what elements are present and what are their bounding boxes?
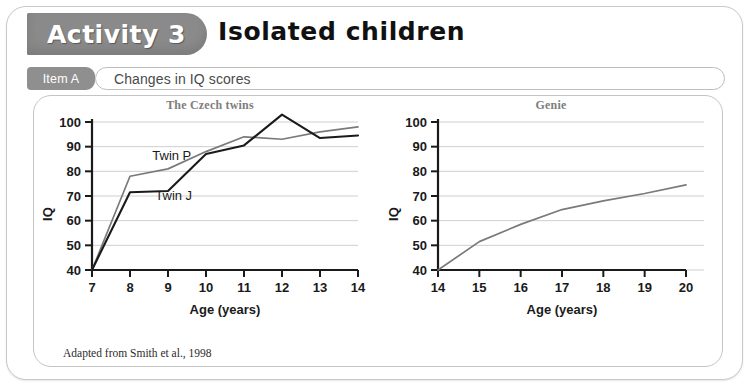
svg-text:100: 100: [59, 115, 81, 130]
svg-text:16: 16: [513, 280, 527, 295]
svg-text:8: 8: [126, 280, 133, 295]
svg-text:14: 14: [431, 280, 446, 295]
svg-text:Age (years): Age (years): [527, 302, 598, 317]
source-credit: Adapted from Smith et al., 1998: [63, 347, 212, 359]
svg-text:60: 60: [413, 213, 427, 228]
svg-text:Twin P: Twin P: [152, 148, 191, 163]
charts-panel: The Czech twins 405060708090100789101112…: [33, 95, 723, 367]
svg-text:90: 90: [67, 139, 81, 154]
svg-text:100: 100: [405, 115, 427, 130]
svg-text:11: 11: [237, 280, 251, 295]
svg-text:50: 50: [67, 238, 81, 253]
svg-text:40: 40: [413, 263, 427, 278]
svg-text:12: 12: [275, 280, 289, 295]
chart-canvas-czech-twins: 4050607080901007891011121314Age (years)I…: [40, 108, 380, 333]
item-caption-label: Changes in IQ scores: [96, 71, 251, 87]
svg-text:90: 90: [413, 139, 427, 154]
svg-text:60: 60: [67, 213, 81, 228]
svg-text:40: 40: [67, 263, 81, 278]
chart-genie: Genie 40506070809010014151617181920Age (…: [386, 96, 716, 336]
svg-text:Twin J: Twin J: [155, 188, 192, 203]
item-row: Item A Changes in IQ scores: [27, 67, 727, 92]
svg-text:18: 18: [596, 280, 610, 295]
svg-text:70: 70: [67, 189, 81, 204]
svg-text:IQ: IQ: [386, 207, 401, 221]
page-title: Isolated children: [218, 17, 465, 46]
activity-tab-label: Activity 3: [27, 20, 186, 49]
svg-text:10: 10: [199, 280, 213, 295]
svg-text:50: 50: [413, 238, 427, 253]
activity-tab: Activity 3: [27, 13, 207, 55]
chart-canvas-genie: 40506070809010014151617181920Age (years)…: [386, 108, 716, 333]
svg-text:19: 19: [637, 280, 651, 295]
svg-text:20: 20: [679, 280, 693, 295]
chart-czech-twins: The Czech twins 405060708090100789101112…: [40, 96, 380, 336]
item-tab: Item A: [27, 67, 95, 90]
item-tab-label: Item A: [43, 72, 80, 86]
svg-text:13: 13: [313, 280, 327, 295]
svg-text:15: 15: [472, 280, 486, 295]
svg-text:7: 7: [88, 280, 95, 295]
item-caption-box: Changes in IQ scores: [95, 67, 725, 90]
svg-text:14: 14: [351, 280, 366, 295]
svg-text:80: 80: [67, 164, 81, 179]
header-bar: Activity 3 Isolated children: [13, 13, 738, 57]
svg-text:Age (years): Age (years): [190, 302, 261, 317]
svg-text:70: 70: [413, 189, 427, 204]
page-panel: Activity 3 Isolated children Item A Chan…: [6, 6, 743, 380]
svg-text:17: 17: [555, 280, 569, 295]
svg-text:IQ: IQ: [40, 207, 55, 221]
svg-text:9: 9: [164, 280, 171, 295]
svg-text:80: 80: [413, 164, 427, 179]
